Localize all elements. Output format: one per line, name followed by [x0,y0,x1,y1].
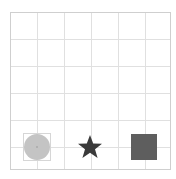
grid-line [11,66,170,67]
circle-piece[interactable] [24,134,50,160]
grid-line [11,93,170,94]
star-piece[interactable] [77,134,103,160]
grid-line [11,39,170,40]
grid-line [118,13,119,169]
grid-line [11,120,170,121]
center-dot [36,146,38,148]
square-piece[interactable] [131,134,157,160]
grid-line [64,13,65,169]
